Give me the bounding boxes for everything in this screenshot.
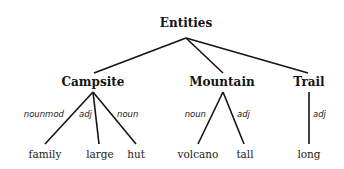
entity-tree-diagram: Entities Campsite Mountain Trail nounmod…	[0, 0, 344, 169]
edge-campsite-large	[93, 92, 99, 144]
category-label-trail: Trail	[293, 75, 325, 89]
edge-root-campsite	[94, 38, 186, 73]
category-label-mountain: Mountain	[189, 75, 255, 89]
category-label-campsite: Campsite	[62, 75, 125, 89]
edge-label-nounmod: nounmod	[24, 109, 65, 119]
root-node-label: Entities	[160, 16, 213, 30]
leaf-label-family: family	[29, 148, 62, 160]
edge-label-adj-large: adj	[79, 109, 93, 119]
edge-label-adj-tall: adj	[237, 109, 251, 119]
leaf-label-hut: hut	[127, 148, 146, 160]
leaf-label-long: long	[297, 148, 320, 160]
edge-label-noun-volcano: noun	[185, 109, 206, 119]
edge-label-adj-long: adj	[313, 109, 327, 119]
leaf-label-large: large	[86, 148, 114, 160]
edge-label-noun-hut: noun	[117, 109, 138, 119]
leaf-label-tall: tall	[236, 148, 254, 160]
leaf-label-volcano: volcano	[177, 148, 219, 160]
